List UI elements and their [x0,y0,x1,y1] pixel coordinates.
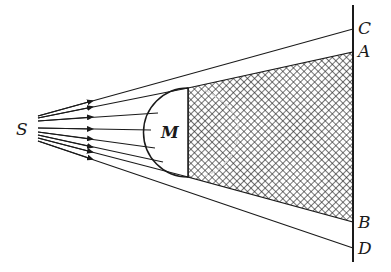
label-object-m: M [160,123,180,142]
label-point-c: C [358,18,371,38]
label-point-d: D [357,238,372,258]
shadow-diagram: S M C A B D [0,0,391,272]
umbra-shadow-region [188,52,353,222]
label-point-b: B [357,212,371,232]
label-point-a: A [356,41,370,61]
label-source-s: S [16,119,28,139]
